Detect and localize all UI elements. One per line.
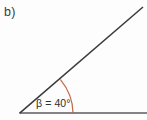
part-label: b) [4, 5, 16, 19]
angle-diagram-canvas [0, 0, 147, 120]
geometry-figure: b) β = 40° [0, 0, 147, 120]
angle-measure-label: β = 40° [36, 97, 71, 109]
